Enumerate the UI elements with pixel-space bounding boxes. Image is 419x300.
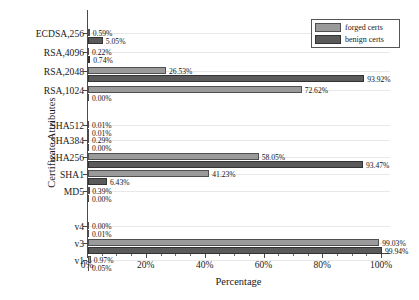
bar-value-label: 0.74%: [93, 55, 113, 64]
category-label-ecdsa-256: ECDSA,256: [36, 28, 84, 39]
bar-benign-ecdsa-256: [88, 37, 103, 44]
bar-forged-rsa-4096: [88, 48, 89, 55]
bar-value-label: 99.94%: [385, 246, 408, 255]
bar-benign-rsa-2048: [88, 75, 364, 82]
bar-forged-rsa-2048: [88, 67, 166, 74]
bar-value-label: 72.62%: [305, 85, 328, 94]
x-axis-title: Percentage: [87, 276, 390, 287]
gridline: [87, 125, 390, 126]
legend-item[interactable]: benign certs: [315, 34, 396, 45]
category-label-md5: MD5: [64, 186, 84, 197]
gridline: [87, 52, 390, 53]
bar-value-label: 41.23%: [212, 169, 235, 178]
bar-benign-sha256: [88, 161, 363, 168]
category-label-sha1: SHA1: [60, 169, 84, 180]
bar-value-label: 0.00%: [92, 194, 112, 203]
bar-forged-sha384: [88, 136, 89, 143]
bar-benign-sha1: [88, 178, 107, 185]
bar-value-label: 0.00%: [92, 93, 112, 102]
bar-value-label: 5.05%: [106, 36, 126, 45]
bar-value-label: 26.53%: [169, 66, 192, 75]
legend-swatch-forged: [315, 23, 341, 32]
x-axis-tick-label: 60%: [255, 260, 272, 270]
bar-benign-rsa-4096: [88, 56, 90, 63]
x-axis-tick-label: 100%: [370, 260, 392, 270]
legend-item[interactable]: forged certs: [315, 22, 396, 33]
bar-forged-v1: [88, 256, 91, 263]
category-label-sha384: SHA384: [50, 135, 84, 146]
bar-benign-md5: [88, 195, 89, 202]
bar-forged-v3: [88, 239, 379, 246]
category-label-sha256: SHA256: [50, 152, 84, 163]
bar-forged-sha256: [88, 153, 259, 160]
bar-benign-sha512: [88, 129, 89, 136]
category-label-sha512: SHA512: [50, 120, 84, 131]
category-label-v4: v4: [74, 221, 84, 232]
legend-swatch-benign: [315, 35, 341, 44]
category-label-rsa-1024: RSA,1024: [44, 85, 84, 96]
bar-forged-md5: [88, 187, 90, 194]
category-label-v1: v1: [74, 255, 84, 266]
gridline: [87, 260, 390, 261]
bar-value-label: 0.00%: [92, 143, 112, 152]
legend: forged certsbenign certs: [311, 19, 400, 48]
bar-benign-sha384: [88, 144, 89, 151]
x-axis-tick-label: 80%: [314, 260, 331, 270]
gridline: [87, 140, 390, 141]
bar-benign-v1: [88, 264, 89, 271]
bar-forged-sha512: [88, 121, 89, 128]
bar-benign-v4: [88, 230, 89, 237]
bar-value-label: 58.05%: [262, 152, 285, 161]
legend-label: benign certs: [345, 35, 384, 44]
bar-value-label: 0.05%: [92, 263, 112, 272]
x-axis-tick-label: 20%: [137, 260, 154, 270]
bar-value-label: 0.01%: [92, 128, 112, 137]
category-label-rsa-2048: RSA,2048: [44, 66, 84, 77]
gridline: [87, 226, 390, 227]
gridline: [87, 191, 390, 192]
chart-figure: Certificate Attributes Percentage 0%20%4…: [0, 0, 419, 300]
category-label-rsa-4096: RSA,4096: [44, 47, 84, 58]
bar-forged-v4: [88, 222, 89, 229]
category-label-v3: v3: [74, 238, 84, 249]
bar-value-label: 93.47%: [366, 160, 389, 169]
bar-forged-sha1: [88, 170, 209, 177]
bar-benign-rsa-1024: [88, 94, 89, 101]
x-axis-tick-label: 40%: [196, 260, 213, 270]
legend-label: forged certs: [345, 23, 383, 32]
bar-value-label: 6.43%: [110, 177, 130, 186]
bar-benign-v3: [88, 247, 382, 254]
bar-value-label: 0.01%: [92, 229, 112, 238]
bar-forged-rsa-1024: [88, 86, 302, 93]
bar-value-label: 93.92%: [367, 74, 390, 83]
bar-forged-ecdsa-256: [88, 29, 90, 36]
